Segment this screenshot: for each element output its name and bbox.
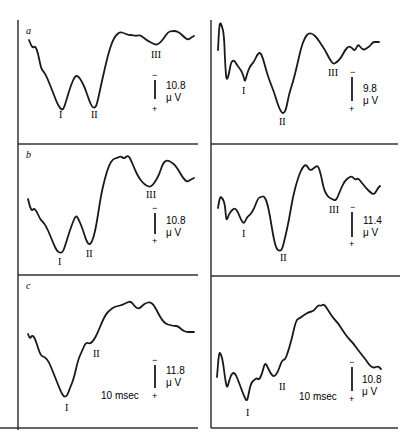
time-scale-label: 10 msec xyxy=(299,391,337,402)
peak-label-I: I xyxy=(242,228,245,239)
waveform-b-left xyxy=(28,156,194,253)
waveform-c-right xyxy=(217,305,381,400)
peak-label-II: II xyxy=(280,252,287,263)
scale-minus: − xyxy=(349,357,354,367)
scale-bar-a-right: − + 9.8 μ V xyxy=(349,67,379,114)
peak-label-I: I xyxy=(59,109,62,120)
peak-label-II: II xyxy=(86,248,93,259)
scale-bar-b-right: − + 11.4 μ V xyxy=(349,202,382,249)
scale-unit: μ V xyxy=(363,227,379,238)
scale-minus: − xyxy=(152,203,157,213)
peak-label-I: I xyxy=(246,407,249,418)
scale-bar-b-left: − + 10.8 μ V xyxy=(152,203,186,246)
scale-value: 10.8 xyxy=(362,374,382,385)
panel-letter-b: b xyxy=(26,149,31,160)
evoked-potential-figure: a b c I II III I II III I II III I II II… xyxy=(0,0,414,447)
scale-minus: − xyxy=(152,70,157,80)
peak-label-II: II xyxy=(93,348,100,359)
peak-label-III: III xyxy=(328,67,338,78)
scale-unit: μ V xyxy=(166,92,182,103)
scale-value: 9.8 xyxy=(363,83,377,94)
scale-plus: + xyxy=(152,104,157,114)
scale-minus: − xyxy=(350,202,355,212)
scale-value: 11.4 xyxy=(363,215,382,226)
peak-label-II: II xyxy=(279,116,286,127)
scale-unit: μ V xyxy=(362,386,378,397)
scale-bar-c-left: − + 11.8 μ V 10 msec xyxy=(101,355,185,401)
peak-label-II: II xyxy=(91,109,98,120)
scale-value: 10.8 xyxy=(166,80,186,91)
peak-label-III: III xyxy=(329,204,339,215)
panel-letter-a: a xyxy=(26,25,31,36)
peak-label-I: I xyxy=(65,402,68,413)
scale-plus: + xyxy=(349,104,354,114)
scale-bar-a-left: − + 10.8 μ V xyxy=(152,70,186,114)
peak-label-I: I xyxy=(242,85,245,96)
scale-unit: μ V xyxy=(363,95,379,106)
scale-minus: − xyxy=(152,355,157,365)
scale-unit: μ V xyxy=(166,377,182,388)
time-scale-label: 10 msec xyxy=(101,390,139,401)
scale-value: 11.8 xyxy=(166,365,185,376)
scale-unit: μ V xyxy=(166,227,182,238)
scale-minus: − xyxy=(350,67,355,77)
peak-label-III: III xyxy=(151,49,161,60)
peak-label-III: III xyxy=(146,189,156,200)
peak-label-II: II xyxy=(279,381,286,392)
scale-plus: + xyxy=(349,239,354,249)
scale-plus: + xyxy=(152,236,157,246)
scale-plus: + xyxy=(152,391,157,401)
peak-label-I: I xyxy=(58,256,61,267)
panel-letter-c: c xyxy=(26,280,31,291)
scale-value: 10.8 xyxy=(166,215,186,226)
scale-plus: + xyxy=(349,394,354,404)
